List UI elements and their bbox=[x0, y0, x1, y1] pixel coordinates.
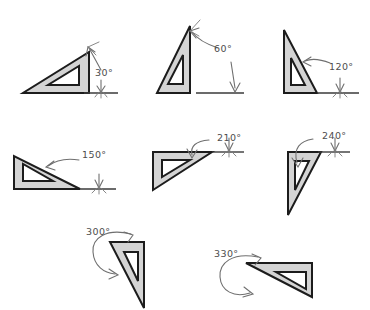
angle-label-150: 150° bbox=[82, 149, 106, 160]
set-square-300 bbox=[110, 242, 144, 308]
angle-label-330: 330° bbox=[214, 248, 238, 259]
cell-240: 240° bbox=[288, 130, 350, 215]
arc-arrow-330 bbox=[220, 256, 258, 295]
cell-120: 120° bbox=[284, 30, 359, 98]
curve-arrow-head-120 bbox=[303, 57, 311, 66]
set-square-330 bbox=[246, 263, 312, 297]
curve-arrow-120 bbox=[305, 59, 330, 63]
arc-arrow-head-start-300 bbox=[124, 232, 133, 242]
angle-label-30: 30° bbox=[95, 67, 113, 78]
cell-60: 60° bbox=[157, 20, 244, 93]
arc-arrow-head-end-330 bbox=[243, 287, 253, 297]
angle-label-240: 240° bbox=[322, 130, 346, 141]
angle-label-60: 60° bbox=[214, 43, 232, 54]
set-square-240 bbox=[288, 152, 321, 215]
set-square-210 bbox=[153, 152, 212, 190]
cell-150: 150° bbox=[14, 149, 116, 194]
cell-300: 300° bbox=[86, 226, 144, 308]
set-square-120 bbox=[284, 30, 317, 93]
cell-210: 210° bbox=[153, 132, 244, 190]
set-square-60 bbox=[157, 26, 190, 93]
angle-label-120: 120° bbox=[329, 61, 353, 72]
set-square-30 bbox=[23, 52, 89, 93]
angle-label-210: 210° bbox=[217, 132, 241, 143]
set-square-150 bbox=[14, 156, 80, 189]
set-square-rotation-figure: 30° 60° bbox=[0, 0, 370, 310]
diagram-canvas: 30° 60° bbox=[0, 0, 370, 310]
angle-label-300: 300° bbox=[86, 226, 110, 237]
cell-330: 330° bbox=[214, 248, 312, 297]
cell-30: 30° bbox=[23, 42, 118, 98]
angle-indicator-330 bbox=[220, 254, 261, 297]
angle-indicator-60 bbox=[190, 20, 244, 93]
